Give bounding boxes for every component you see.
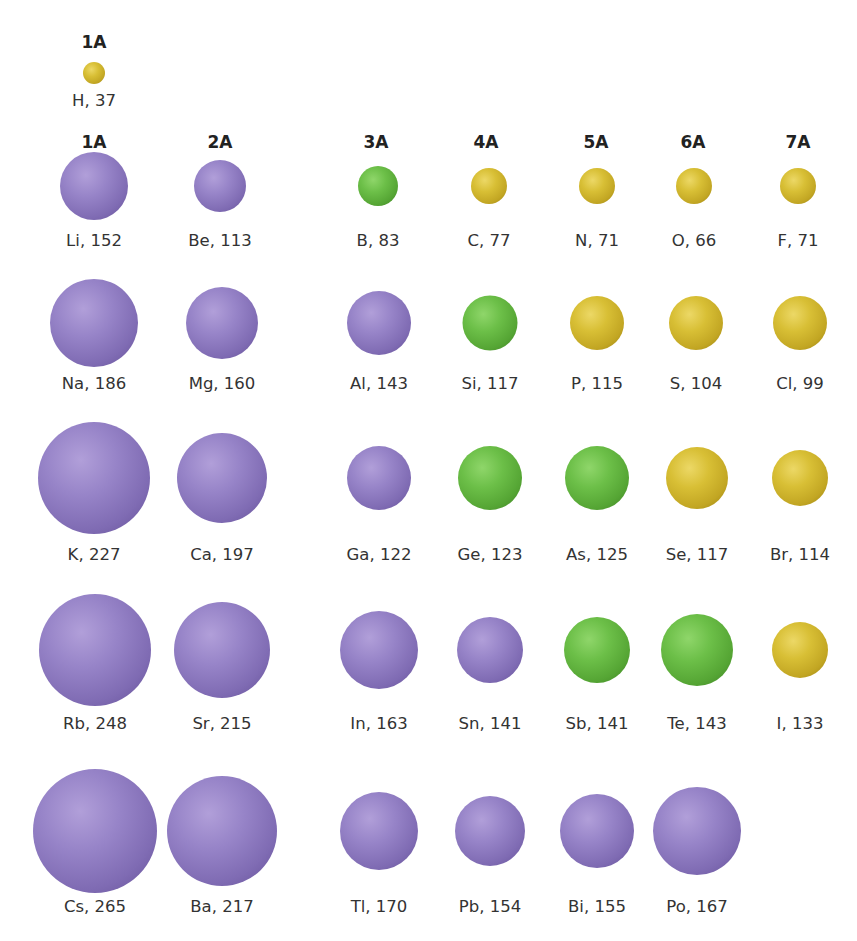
atomic-radii-diagram: 1A H, 37 1A 2A 3A 4A 5A 6A 7A Li, 152Be,… — [0, 0, 857, 941]
atom-label-ge: Ge, 123 — [458, 545, 523, 564]
hydrogen-group-header: 1A — [82, 32, 107, 52]
atom-sphere-al — [347, 291, 411, 355]
atom-label-rb: Rb, 248 — [63, 714, 127, 733]
hydrogen-sphere — [83, 62, 105, 84]
atom-sphere-n — [579, 168, 615, 204]
atom-sphere-mg — [186, 287, 258, 359]
atom-sphere-o — [676, 168, 712, 204]
atom-sphere-c — [471, 168, 507, 204]
group-header-6a: 6A — [681, 132, 706, 152]
atom-label-cl: Cl, 99 — [776, 374, 824, 393]
atom-label-ga: Ga, 122 — [347, 545, 412, 564]
atom-label-f: F, 71 — [778, 231, 819, 250]
atom-label-k: K, 227 — [68, 545, 121, 564]
atom-sphere-sb — [564, 617, 630, 683]
atom-label-po: Po, 167 — [666, 897, 727, 916]
atom-label-c: C, 77 — [467, 231, 510, 250]
atom-sphere-br — [772, 450, 828, 506]
atom-sphere-te — [661, 614, 733, 686]
atom-label-sn: Sn, 141 — [459, 714, 522, 733]
atom-sphere-f — [780, 168, 816, 204]
atom-sphere-si — [463, 296, 518, 351]
atom-label-tl: Tl, 170 — [351, 897, 408, 916]
atom-sphere-ca — [177, 433, 267, 523]
atom-sphere-po — [653, 787, 741, 875]
atom-sphere-bi — [560, 794, 634, 868]
atom-label-cs: Cs, 265 — [64, 897, 126, 916]
atom-sphere-sn — [457, 617, 523, 683]
atom-sphere-k — [38, 422, 150, 534]
atom-sphere-sr — [174, 602, 270, 698]
atom-sphere-pb — [455, 796, 525, 866]
atom-label-bi: Bi, 155 — [568, 897, 626, 916]
atom-label-o: O, 66 — [672, 231, 716, 250]
atom-label-ca: Ca, 197 — [190, 545, 254, 564]
atom-sphere-in — [340, 611, 418, 689]
atom-label-te: Te, 143 — [667, 714, 726, 733]
atom-label-be: Be, 113 — [188, 231, 251, 250]
atom-sphere-b — [358, 166, 398, 206]
atom-sphere-na — [50, 279, 138, 367]
group-header-4a: 4A — [474, 132, 499, 152]
atom-sphere-cl — [773, 296, 827, 350]
atom-label-al: Al, 143 — [350, 374, 408, 393]
atom-label-b: B, 83 — [357, 231, 400, 250]
atom-sphere-p — [570, 296, 624, 350]
atom-sphere-rb — [39, 594, 151, 706]
atom-label-n: N, 71 — [575, 231, 619, 250]
atom-label-li: Li, 152 — [66, 231, 122, 250]
atom-sphere-i — [772, 622, 828, 678]
group-header-7a: 7A — [786, 132, 811, 152]
atom-label-na: Na, 186 — [62, 374, 126, 393]
atom-label-i: I, 133 — [777, 714, 824, 733]
atom-sphere-be — [194, 160, 246, 212]
atom-sphere-tl — [340, 792, 418, 870]
atom-label-sb: Sb, 141 — [566, 714, 629, 733]
hydrogen-label: H, 37 — [72, 91, 116, 110]
atom-label-in: In, 163 — [350, 714, 407, 733]
group-header-3a: 3A — [364, 132, 389, 152]
atom-sphere-ba — [167, 776, 277, 886]
atom-sphere-cs — [33, 769, 157, 893]
atom-label-si: Si, 117 — [461, 374, 518, 393]
group-header-5a: 5A — [584, 132, 609, 152]
atom-label-pb: Pb, 154 — [459, 897, 521, 916]
atom-sphere-ga — [347, 446, 411, 510]
atom-label-as: As, 125 — [566, 545, 628, 564]
atom-label-ba: Ba, 217 — [190, 897, 253, 916]
atom-label-se: Se, 117 — [666, 545, 729, 564]
atom-label-br: Br, 114 — [770, 545, 830, 564]
atom-sphere-as — [565, 446, 629, 510]
atom-sphere-li — [60, 152, 128, 220]
atom-label-mg: Mg, 160 — [189, 374, 256, 393]
atom-sphere-s — [669, 296, 723, 350]
atom-label-sr: Sr, 215 — [192, 714, 251, 733]
atom-label-s: S, 104 — [670, 374, 722, 393]
atom-sphere-se — [666, 447, 728, 509]
group-header-2a: 2A — [208, 132, 233, 152]
atom-label-p: P, 115 — [571, 374, 623, 393]
atom-sphere-ge — [458, 446, 522, 510]
group-header-1a: 1A — [82, 132, 107, 152]
